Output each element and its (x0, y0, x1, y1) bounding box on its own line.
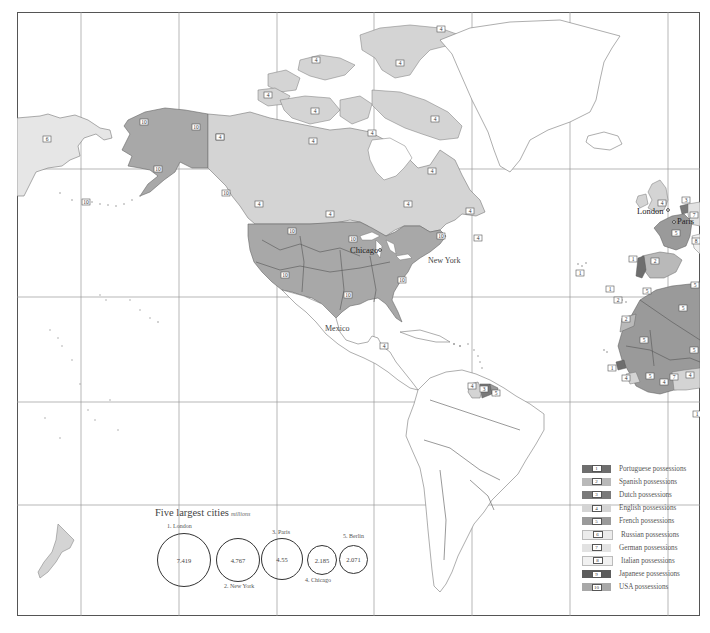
svg-text:4: 4 (329, 211, 332, 217)
svg-text:10: 10 (345, 292, 351, 298)
marker-guyana: 4 (468, 383, 476, 389)
marker-rio-de-oro: 2 (622, 316, 630, 322)
marker-portugal: 1 (629, 256, 637, 262)
svg-text:10: 10 (223, 190, 229, 196)
marker-ontario: 4 (404, 201, 412, 207)
city-value-chicago: 2.185 (315, 557, 330, 564)
city-name-berlin: 5. Berlin (343, 533, 364, 539)
svg-text:4: 4 (469, 208, 472, 214)
region-new-zealand (38, 524, 74, 578)
marker-sierra-leone: 4 (622, 375, 630, 381)
svg-text:4: 4 (407, 201, 410, 207)
city-circle-paris: 4.55 (261, 538, 303, 580)
five-largest-cities-panel: Five largest citiesmillions 1. London 7.… (155, 507, 385, 597)
marker-suriname: 3 (480, 386, 488, 392)
cities-unit: millions (231, 511, 250, 517)
pacific-islands (44, 294, 159, 438)
svg-text:10: 10 (193, 124, 199, 130)
city-value-paris: 4.55 (276, 556, 287, 563)
region-usa (248, 222, 446, 322)
svg-text:4: 4 (258, 201, 261, 207)
city-value-london: 7.419 (177, 557, 192, 564)
city-value-berlin: 2.071 (346, 556, 361, 563)
city-circle-london: 7.419 (157, 533, 211, 587)
svg-text:4: 4 (431, 168, 434, 174)
marker-alaska-s: 10 (154, 166, 162, 172)
marker-netherlands: 3 (682, 197, 690, 203)
marker-quebec: 4 (368, 130, 376, 136)
marker-baffin: 4 (431, 116, 439, 122)
svg-text:2: 2 (617, 297, 620, 303)
svg-text:3: 3 (685, 197, 688, 203)
svg-text:Chicago: Chicago (350, 245, 378, 255)
svg-text:5: 5 (693, 347, 696, 353)
svg-text:1: 1 (609, 286, 612, 292)
marker-honduras: 4 (380, 343, 388, 349)
city-name-london: 1. London (167, 523, 192, 529)
svg-text:4: 4 (383, 343, 386, 349)
marker-sao-tome: 1 (693, 411, 701, 417)
svg-text:1: 1 (632, 256, 635, 262)
aleutian-islands (59, 192, 141, 207)
svg-text:5: 5 (694, 282, 697, 288)
marker-alaska-n: 10 (140, 119, 148, 125)
marker-sahara-n: 5 (679, 305, 687, 311)
city-chicago: Chicago (350, 245, 381, 255)
marker-us-south: 10 (344, 292, 352, 298)
marker-arctic-3: 4 (396, 60, 404, 66)
region-south-america (406, 370, 544, 592)
marker-bc-coast: 10 (222, 190, 230, 196)
legend-swatch: 10 (582, 583, 611, 591)
svg-text:1: 1 (696, 411, 699, 417)
region-cuba (400, 330, 450, 342)
legend-swatch: 2 (582, 478, 611, 486)
svg-text:8: 8 (695, 238, 698, 244)
marker-french-wa: 5 (640, 337, 648, 343)
svg-text:4: 4 (267, 92, 270, 98)
marker-us-plains: 10 (349, 236, 357, 242)
marker-italy: 8 (692, 238, 700, 244)
marker-newfoundland: 4 (474, 235, 482, 241)
svg-text:2: 2 (654, 258, 657, 264)
svg-text:Mexico: Mexico (325, 324, 349, 333)
marker-bc: 4 (255, 201, 263, 207)
svg-text:5: 5 (646, 288, 649, 294)
svg-text:3: 3 (483, 386, 486, 392)
marker-us-nw: 10 (288, 228, 296, 234)
marker-alaska-c: 10 (192, 124, 200, 130)
svg-text:Paris: Paris (677, 216, 694, 226)
city-name-paris: 3. Paris (272, 529, 290, 535)
marker-morocco: 5 (643, 288, 651, 294)
legend-item-dutch: 3 Dutch possessions (582, 488, 702, 501)
region-portugal (636, 256, 646, 278)
legend-item-spanish: 2 Spanish possessions (582, 475, 702, 488)
city-name-new-york: 2. New York (224, 583, 254, 589)
legend-swatch: 9 (582, 570, 611, 578)
svg-text:New York: New York (428, 256, 460, 265)
marker-nigeria: 4 (686, 372, 694, 378)
city-new-york: New York (428, 256, 460, 265)
svg-text:1: 1 (579, 270, 582, 276)
svg-text:10: 10 (350, 236, 356, 242)
marker-madeira: 1 (606, 286, 614, 292)
legend-swatch: 1 (582, 465, 611, 473)
legend-item-french: 5 French possessions (582, 515, 702, 528)
svg-text:6: 6 (46, 136, 49, 142)
legend-swatch: 4 (582, 504, 611, 512)
legend-swatch: 7 (582, 544, 611, 552)
svg-text:10: 10 (438, 233, 444, 239)
marker-maritimes: 4 (466, 208, 474, 214)
city-value-new-york: 4.767 (231, 557, 246, 564)
svg-text:London: London (637, 206, 664, 216)
svg-text:4: 4 (219, 134, 222, 140)
svg-text:4: 4 (315, 57, 318, 63)
marker-gold-coast: 4 (660, 379, 668, 385)
svg-text:4: 4 (371, 130, 374, 136)
svg-text:4: 4 (314, 108, 317, 114)
svg-text:10: 10 (141, 119, 147, 125)
svg-text:5: 5 (643, 337, 646, 343)
marker-spain: 2 (651, 258, 659, 264)
svg-text:5: 5 (682, 305, 685, 311)
city-circle-berlin: 2.071 (339, 545, 368, 574)
legend-item-german: 7 German possessions (582, 541, 702, 554)
